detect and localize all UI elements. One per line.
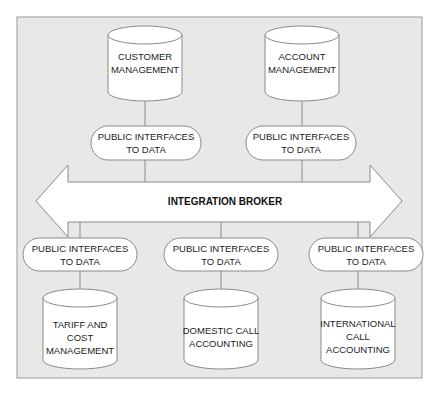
system-label: MANAGEMENT [268, 64, 336, 75]
cylinder-tariff-cost-management: TARIFF AND COST MANAGEMENT [43, 289, 117, 369]
interface-pill-account: PUBLIC INTERFACES TO DATA [246, 126, 356, 160]
interface-pill-domestic: PUBLIC INTERFACES TO DATA [164, 238, 278, 271]
system-label: CALL [346, 331, 370, 342]
system-label: TARIFF AND [53, 319, 108, 330]
interface-label: TO DATA [346, 256, 386, 267]
interface-label: TO DATA [126, 144, 166, 155]
interface-label: PUBLIC INTERFACES [98, 131, 195, 142]
cylinder-customer-management: CUSTOMER MANAGEMENT [108, 26, 182, 101]
system-label: DOMESTIC CALL [183, 325, 260, 336]
interface-pill-international: PUBLIC INTERFACES TO DATA [309, 238, 423, 271]
system-label: ACCOUNTING [326, 344, 390, 355]
interface-label: TO DATA [201, 256, 241, 267]
interface-pill-tariff: PUBLIC INTERFACES TO DATA [23, 238, 137, 271]
cylinder-account-management: ACCOUNT MANAGEMENT [265, 26, 339, 101]
system-label: COST [67, 332, 94, 343]
cylinder-domestic-call-accounting: DOMESTIC CALL ACCOUNTING [183, 289, 260, 369]
interface-label: PUBLIC INTERFACES [173, 243, 270, 254]
interface-label: TO DATA [60, 256, 100, 267]
interface-label: PUBLIC INTERFACES [318, 243, 415, 254]
integration-broker-diagram: CUSTOMER MANAGEMENT ACCOUNT MANAGEMENT P… [0, 0, 439, 393]
interface-label: PUBLIC INTERFACES [253, 131, 350, 142]
system-label: MANAGEMENT [111, 64, 179, 75]
interface-label: PUBLIC INTERFACES [32, 243, 129, 254]
system-label: ACCOUNTING [189, 338, 253, 349]
interface-pill-customer: PUBLIC INTERFACES TO DATA [91, 126, 201, 160]
system-label: INTERNATIONAL [320, 318, 395, 329]
cylinder-international-call-accounting: INTERNATIONAL CALL ACCOUNTING [320, 289, 395, 369]
interface-label: TO DATA [281, 144, 321, 155]
system-label: ACCOUNT [279, 51, 326, 62]
system-label: MANAGEMENT [46, 345, 114, 356]
broker-label: INTEGRATION BROKER [168, 196, 283, 207]
system-label: CUSTOMER [118, 51, 172, 62]
